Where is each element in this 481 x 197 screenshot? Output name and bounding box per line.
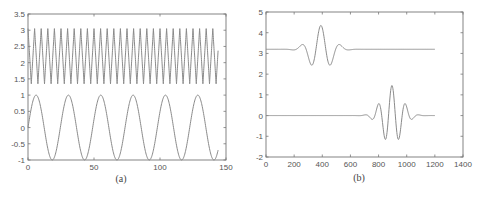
triangle-wave-line bbox=[28, 29, 218, 84]
y-tick-label: 1 bbox=[259, 91, 264, 100]
x-tick-label: 1400 bbox=[454, 160, 472, 169]
y-tick-label: 0.5 bbox=[14, 107, 26, 116]
y-tick-label: -1 bbox=[18, 156, 26, 165]
caption-a: (a) bbox=[115, 173, 126, 185]
x-tick-label: 400 bbox=[316, 160, 330, 169]
y-tick-label: 3 bbox=[259, 49, 264, 58]
x-tick-label: 50 bbox=[90, 163, 99, 172]
x-tick-label: 100 bbox=[153, 163, 167, 172]
y-tick-label: 2 bbox=[259, 70, 264, 79]
y-tick-label: 2 bbox=[21, 59, 26, 68]
sine-wave-line bbox=[28, 95, 218, 160]
x-tick-label: 150 bbox=[219, 163, 233, 172]
y-tick-label: 5 bbox=[259, 8, 264, 17]
y-tick-label: 0 bbox=[259, 112, 264, 121]
y-tick-label: -0.5 bbox=[11, 140, 25, 149]
y-tick-label: 3.5 bbox=[14, 10, 26, 19]
y-tick-label: 4 bbox=[259, 29, 264, 38]
x-tick-label: 1200 bbox=[426, 160, 444, 169]
y-tick-label: -2 bbox=[256, 153, 264, 162]
x-tick-label: 0 bbox=[264, 160, 269, 169]
x-tick-label: 200 bbox=[287, 160, 301, 169]
upper-wavelet-line bbox=[266, 25, 435, 65]
y-tick-label: -1 bbox=[256, 132, 264, 141]
lower-wavelet-line bbox=[266, 86, 435, 140]
chart-panel-a: 050100150-1-0.500.511.522.533.5 bbox=[11, 10, 233, 172]
x-tick-label: 800 bbox=[372, 160, 386, 169]
y-tick-label: 1.5 bbox=[14, 75, 26, 84]
y-tick-label: 1 bbox=[21, 91, 26, 100]
caption-b: (b) bbox=[353, 172, 365, 184]
chart-panel-b: 0200400600800100012001400-2-1012345 bbox=[256, 8, 473, 169]
figure: 050100150-1-0.500.511.522.533.5 02004006… bbox=[0, 0, 481, 197]
y-tick-label: 0 bbox=[21, 124, 26, 133]
x-tick-label: 0 bbox=[26, 163, 31, 172]
plot-area bbox=[266, 12, 463, 157]
x-tick-label: 1000 bbox=[398, 160, 416, 169]
y-tick-label: 3 bbox=[21, 26, 26, 35]
y-tick-label: 2.5 bbox=[14, 42, 26, 51]
x-tick-label: 600 bbox=[344, 160, 358, 169]
